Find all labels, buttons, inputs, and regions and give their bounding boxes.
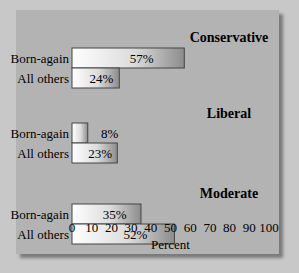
x-tick-label: 90 xyxy=(243,220,256,235)
x-tick-label: 100 xyxy=(259,220,279,235)
category-label: All others xyxy=(17,146,69,161)
x-tick-label: 70 xyxy=(203,220,216,235)
x-tick-label: 0 xyxy=(69,220,76,235)
x-tick-label: 60 xyxy=(184,220,197,235)
data-label: 57% xyxy=(130,51,154,66)
group-title-moderate: Moderate xyxy=(200,186,258,201)
x-tick-label: 10 xyxy=(85,220,98,235)
x-tick-label: 20 xyxy=(105,220,118,235)
group-title-conservative: Conservative xyxy=(190,30,269,45)
category-label: All others xyxy=(17,71,69,86)
x-tick-label: 40 xyxy=(144,220,157,235)
x-tick-label: 80 xyxy=(223,220,236,235)
group-title-liberal: Liberal xyxy=(207,106,251,121)
chart: ConservativeBorn-again57%All others24%Li… xyxy=(0,0,299,273)
x-tick-label: 50 xyxy=(164,220,177,235)
category-label: All others xyxy=(17,227,69,242)
x-axis-label: Percent xyxy=(151,237,190,252)
category-label: Born-again xyxy=(11,126,70,141)
data-label: 8% xyxy=(101,126,119,141)
bar xyxy=(72,123,88,143)
x-tick-label: 30 xyxy=(125,220,138,235)
bar xyxy=(72,48,184,68)
category-label: Born-again xyxy=(11,51,70,66)
category-label: Born-again xyxy=(11,207,70,222)
data-label: 23% xyxy=(88,146,112,161)
data-label: 24% xyxy=(89,71,113,86)
